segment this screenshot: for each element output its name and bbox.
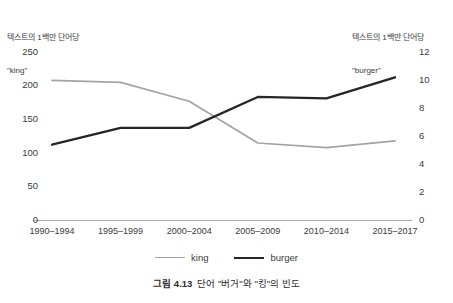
figure-caption-text: 단어 "버거"와 "킹"의 빈도 xyxy=(197,278,299,289)
right-axis-tick-4: 4 xyxy=(419,158,449,169)
figure-container: 텍스트의 1백만 단어당 "king" 텍스트의 1백만 단어당 "burger… xyxy=(0,0,453,303)
legend-label-burger: burger xyxy=(270,252,297,263)
figure-caption-number: 그림 4.13 xyxy=(153,278,192,289)
x-axis-tick-3: 2005–2009 xyxy=(223,226,293,236)
left-axis-tick-0: 0 xyxy=(8,214,38,225)
chart-legend: king burger xyxy=(0,252,453,263)
left-axis-tick-100: 100 xyxy=(8,147,38,158)
right-axis-tick-2: 2 xyxy=(419,186,449,197)
right-axis-tick-0: 0 xyxy=(419,214,449,225)
x-axis-tick-5: 2015–2017 xyxy=(360,226,430,236)
x-axis-tick-1: 1995–1999 xyxy=(86,226,156,236)
right-axis-tick-8: 8 xyxy=(419,102,449,113)
legend-swatch-burger-icon xyxy=(234,257,264,259)
right-axis-tick-12: 12 xyxy=(419,46,449,57)
x-axis-tick-4: 2010–2014 xyxy=(291,226,361,236)
chart-plot-area xyxy=(0,0,453,245)
line-series-burger xyxy=(52,77,395,144)
right-axis-tick-10: 10 xyxy=(419,74,449,85)
legend-item-burger: burger xyxy=(234,252,297,263)
line-series-king xyxy=(52,80,395,147)
left-axis-tick-150: 150 xyxy=(8,113,38,124)
legend-swatch-king-icon xyxy=(155,257,185,258)
right-axis-tick-6: 6 xyxy=(419,130,449,141)
legend-label-king: king xyxy=(191,252,208,263)
legend-item-king: king xyxy=(155,252,208,263)
figure-caption: 그림 4.13단어 "버거"와 "킹"의 빈도 xyxy=(0,276,453,290)
x-axis-tick-0: 1990–1994 xyxy=(17,226,87,236)
x-axis-tick-2: 2000–2004 xyxy=(154,226,224,236)
left-axis-tick-50: 50 xyxy=(8,180,38,191)
left-axis-tick-250: 250 xyxy=(8,46,38,57)
left-axis-tick-200: 200 xyxy=(8,79,38,90)
